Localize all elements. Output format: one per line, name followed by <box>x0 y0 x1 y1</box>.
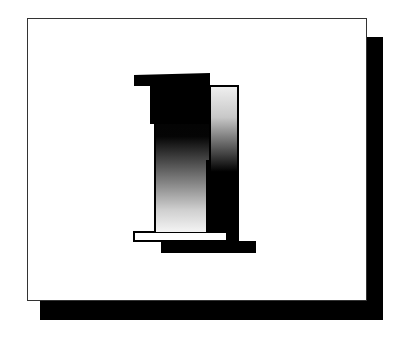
glyph-back-stem <box>210 86 238 242</box>
numeral-one-icon <box>0 0 405 338</box>
glyph-shadow-base <box>161 241 256 253</box>
glyph-bottom-serif <box>134 232 227 241</box>
